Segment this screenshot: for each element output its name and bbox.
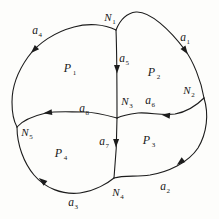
arrowhead-a8-icon: [43, 109, 52, 116]
arc-a7-path: [114, 118, 117, 178]
arrowhead-a6-icon: [161, 112, 170, 119]
arc-curves: [12, 12, 207, 193]
arc-a8-path: [17, 112, 117, 127]
arrowheads-group: [29, 45, 190, 186]
arrowhead-a7-icon: [113, 139, 119, 148]
arc-a6-path: [117, 98, 204, 118]
arrowhead-a1-icon: [181, 46, 191, 56]
graph-canvas: [0, 0, 219, 219]
arrowhead-a5-icon: [114, 65, 120, 74]
arc-a1-path: [116, 12, 204, 98]
arc-a2-path: [114, 98, 207, 178]
arc-a3-path: [17, 127, 114, 193]
arrowhead-a3-icon: [37, 176, 47, 186]
arc-a5-path: [116, 30, 117, 118]
graph-diagram: N1N2N3N4N5a1a2a3a4a5a6a7a8P1P2P3P4: [0, 0, 219, 219]
